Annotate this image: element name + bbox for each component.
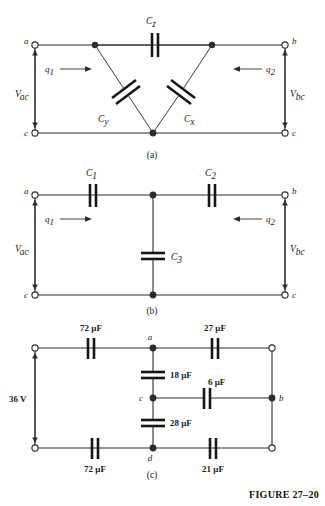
panel-a-vbc-label: Vbc: [290, 89, 306, 102]
panel-a-cy-plate-outer: [112, 80, 136, 98]
panel-b-vbc-label: Vbc: [290, 244, 306, 257]
panel-b-caption: (b): [146, 306, 157, 317]
panel-c-label-b: b: [279, 393, 284, 403]
panel-c-node-c: [150, 395, 157, 402]
panel-b-vac-arrow-up: [32, 200, 38, 206]
panel-b-label-c-right: c: [292, 290, 296, 300]
panel-a-terminal-c-left: [32, 130, 38, 136]
panel-c-label-c: c: [139, 393, 143, 403]
panel-c-node-b: [269, 395, 276, 402]
panel-b-vbc-arrow-up: [282, 200, 288, 206]
panel-b-c2-label: C2: [205, 168, 216, 181]
panel-a-q1-label: q1: [45, 64, 54, 77]
panel-b-terminal-a: [32, 192, 38, 198]
figure-caption: FIGURE 27–20: [249, 489, 319, 500]
panel-b-label-a: a: [24, 186, 29, 196]
panel-c-node-d: [150, 445, 157, 452]
circuit-diagram-canvas: a b c c Cz Cy Cx q1 q2 Vac Vbc (a): [0, 0, 325, 506]
panel-c-terminal-top-left: [32, 345, 38, 351]
panel-c-source-label: 36 V: [9, 394, 27, 404]
panel-c-source-arrow-down: [32, 438, 38, 444]
panel-a-vac-label: Vac: [15, 89, 30, 102]
panel-c-source-arrow-up: [32, 353, 38, 359]
panel-a-cap-right-label: Cx: [184, 114, 195, 127]
panel-b-label-c-left: c: [24, 290, 28, 300]
figure-sheet: a b c c Cz Cy Cx q1 q2 Vac Vbc (a): [0, 0, 325, 506]
panel-c-cap-18-label: 18 μF: [170, 370, 192, 380]
panel-b-q2-label: q2: [266, 214, 276, 227]
panel-c-cap-bottomright-label: 21 μF: [202, 464, 224, 474]
panel-a-cap-left-label: Cy: [98, 114, 109, 127]
panel-a-caption: (a): [147, 150, 158, 161]
panel-a-q2-label: q2: [266, 64, 276, 77]
panel-c-terminal-bottom-left: [32, 445, 38, 451]
panel-a-q2-arrow-head: [233, 66, 240, 72]
panel-b-terminal-c-right: [282, 292, 288, 298]
panel-c-cap-6-label: 6 μF: [208, 377, 226, 387]
panel-a-label-a: a: [24, 36, 29, 46]
panel-a-cx-plate-outer: [171, 80, 195, 98]
panel-b-terminal-b: [282, 192, 288, 198]
panel-a-vbc-arrow-up: [282, 50, 288, 56]
panel-b-q1-label: q1: [45, 214, 54, 227]
panel-a-circuit: a b c c Cz Cy Cx q1 q2 Vac Vbc (a): [15, 16, 306, 161]
panel-c-cap-bottomleft-label: 72 μF: [84, 464, 106, 474]
panel-c-cap-topleft-label: 72 μF: [80, 323, 102, 333]
panel-c-cap-28-label: 28 μF: [170, 418, 192, 428]
panel-b-label-b: b: [292, 186, 297, 196]
panel-a-terminal-a: [32, 42, 38, 48]
panel-a-cy-lead-upper: [95, 45, 124, 89]
panel-c-caption: (c): [147, 470, 158, 481]
panel-b-vbc-arrow-down: [282, 285, 288, 291]
panel-c-cap-topright-label: 27 μF: [204, 323, 226, 333]
panel-a-vac-arrow-down: [32, 123, 38, 129]
panel-c-terminal-bottom-right: [269, 445, 275, 451]
panel-a-terminal-b: [282, 42, 288, 48]
panel-a-cap-top-label: Cz: [146, 16, 156, 29]
panel-b-vac-label: Vac: [15, 244, 30, 257]
panel-b-q2-arrow-head: [233, 216, 240, 222]
panel-c-terminal-top-right: [269, 345, 275, 351]
panel-b-c1-label: C1: [86, 168, 97, 181]
panel-b-q1-arrow-head: [85, 216, 92, 222]
panel-b-node-top: [150, 192, 157, 199]
panel-c-circuit: a c d b 36 V 72 μF 27 μF 18 μF 6 μF 28 μ…: [9, 323, 284, 481]
panel-a-vbc-arrow-down: [282, 123, 288, 129]
panel-c-label-d: d: [148, 453, 153, 463]
panel-a-vac-arrow-up: [32, 50, 38, 56]
panel-a-label-c-left: c: [24, 128, 28, 138]
panel-b-circuit: a b c c C1 C2 C3 q1 q2 Vac Vbc (b): [15, 168, 306, 317]
panel-a-cx-lead-lower: [153, 95, 179, 133]
panel-a-label-b: b: [292, 36, 297, 46]
panel-b-node-bottom: [150, 292, 157, 299]
panel-c-label-a: a: [148, 332, 153, 342]
panel-c-node-a: [150, 345, 157, 352]
panel-b-c3-label: C3: [171, 252, 182, 265]
panel-a-cx-lead-upper: [183, 45, 212, 89]
panel-a-q1-arrow-head: [85, 66, 92, 72]
panel-b-terminal-c-left: [32, 292, 38, 298]
panel-a-terminal-c-right: [282, 130, 288, 136]
panel-a-label-c-right: c: [292, 128, 296, 138]
panel-b-vac-arrow-down: [32, 285, 38, 291]
panel-a-cy-lead-lower: [128, 95, 153, 133]
